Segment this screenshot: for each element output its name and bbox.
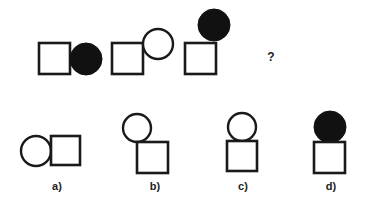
sequence-figure-3 (185, 9, 230, 74)
filled-circle-shape (70, 43, 102, 75)
square-shape (314, 142, 345, 173)
filled-circle-shape (198, 9, 230, 41)
square-shape (137, 142, 168, 173)
option-b-figure[interactable] (123, 114, 168, 173)
square-shape (39, 43, 70, 74)
open-circle-shape (21, 136, 51, 166)
square-shape (227, 141, 257, 171)
sequence-figure-1 (39, 43, 102, 75)
open-circle-shape (123, 114, 151, 142)
sequence-figure-2 (112, 29, 173, 74)
square-shape (112, 43, 143, 74)
square-shape (185, 43, 216, 74)
puzzle-canvas (0, 0, 368, 206)
open-circle-shape (228, 113, 256, 141)
option-c-figure[interactable] (227, 113, 257, 171)
option-a-figure[interactable] (21, 136, 80, 166)
option-c-label[interactable]: c) (238, 180, 248, 192)
question-mark: ? (267, 50, 274, 64)
open-circle-shape (143, 29, 173, 59)
filled-circle-shape (314, 111, 346, 143)
square-shape (51, 136, 80, 165)
option-b-label[interactable]: b) (150, 180, 160, 192)
option-a-label[interactable]: a) (52, 180, 62, 192)
option-d-figure[interactable] (314, 111, 346, 173)
option-d-label[interactable]: d) (326, 180, 336, 192)
